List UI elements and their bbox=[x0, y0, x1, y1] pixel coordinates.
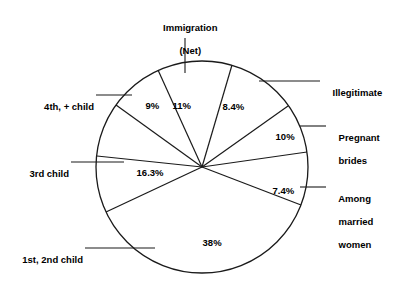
value-label-11: 11% bbox=[162, 89, 191, 122]
value-label-9-text: 9% bbox=[146, 100, 160, 111]
label-immigration-line2: (Net) bbox=[179, 45, 201, 56]
label-third-child: 3rd child bbox=[10, 156, 69, 191]
label-among-married-women-line3: women bbox=[339, 239, 372, 250]
value-label-9: 9% bbox=[135, 89, 159, 122]
value-label-10: 10% bbox=[265, 120, 295, 153]
label-immigration-line1: Immigration bbox=[163, 22, 217, 33]
label-illegitimate: Illegitimate bbox=[322, 75, 396, 110]
label-third-child-text: 3rd child bbox=[29, 168, 69, 179]
label-among-married-women: Among married women bbox=[328, 181, 396, 262]
value-label-10-text: 10% bbox=[276, 131, 295, 142]
label-first-second-child: 1st, 2nd child bbox=[3, 242, 83, 277]
label-immigration: Immigration (Net) bbox=[137, 10, 233, 68]
value-label-16-3: 16.3% bbox=[126, 156, 164, 189]
value-label-38: 38% bbox=[192, 226, 222, 259]
value-label-16-3-text: 16.3% bbox=[137, 167, 164, 178]
value-label-7-4-text: 7.4% bbox=[273, 185, 295, 196]
label-fourth-child-text: 4th, + child bbox=[44, 101, 94, 112]
value-label-7-4: 7.4% bbox=[262, 174, 294, 207]
label-illegitimate-text: Illegitimate bbox=[333, 87, 383, 98]
value-label-8-4: 8.4% bbox=[212, 90, 244, 123]
label-first-second-child-text: 1st, 2nd child bbox=[22, 254, 83, 265]
label-fourth-child: 4th, + child bbox=[14, 89, 94, 124]
value-label-38-text: 38% bbox=[203, 237, 222, 248]
label-among-married-women-line2: married bbox=[339, 216, 374, 227]
pie-chart-figure: Immigration (Net) Illegitimate Pregnant … bbox=[0, 0, 396, 303]
value-label-8-4-text: 8.4% bbox=[223, 101, 245, 112]
label-pregnant-brides-line1: Pregnant bbox=[339, 132, 380, 143]
value-label-11-text: 11% bbox=[173, 100, 192, 111]
label-among-married-women-line1: Among bbox=[338, 193, 371, 204]
label-pregnant-brides-line2: brides bbox=[339, 155, 368, 166]
label-pregnant-brides: Pregnant brides bbox=[328, 120, 396, 178]
